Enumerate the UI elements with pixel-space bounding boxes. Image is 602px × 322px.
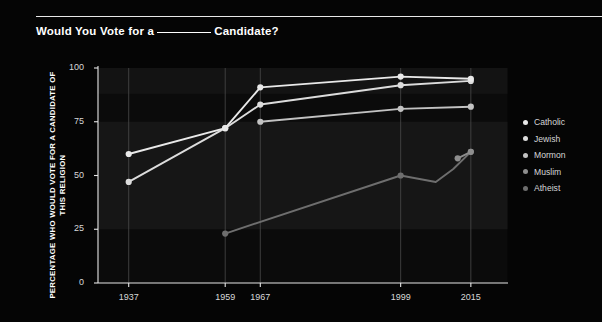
y-tick-label: 25 (50, 223, 84, 233)
data-point-catholic-1937 (126, 151, 132, 157)
legend-item-jewish[interactable]: Jewish (523, 131, 601, 148)
data-point-muslim-2015 (468, 149, 474, 155)
x-tick-label: 1937 (119, 292, 139, 302)
legend-item-catholic[interactable]: Catholic (523, 114, 601, 131)
data-point-jewish-1967 (257, 101, 263, 107)
legend-swatch-icon (523, 136, 528, 141)
data-point-mormon-1967 (257, 119, 263, 125)
legend-item-atheist[interactable]: Atheist (523, 180, 601, 197)
legend-swatch-icon (523, 169, 528, 174)
data-point-catholic-2015 (468, 76, 474, 82)
plot-band-top (98, 68, 508, 94)
data-point-atheist-1999 (398, 172, 404, 178)
data-point-atheist-1959 (222, 230, 228, 236)
y-tick-label: 100 (50, 62, 84, 72)
legend-swatch-icon (523, 186, 528, 191)
legend-item-muslim[interactable]: Muslim (523, 164, 601, 181)
x-tick-label: 1999 (391, 292, 411, 302)
legend-label: Mormon (534, 150, 566, 160)
data-point-catholic-1967 (257, 84, 263, 90)
chart-legend: CatholicJewishMormonMuslimAtheist (523, 114, 601, 197)
legend-swatch-icon (523, 153, 528, 158)
data-point-catholic-1959 (222, 125, 228, 131)
y-tick-label: 75 (50, 116, 84, 126)
y-tick-label: 50 (50, 170, 84, 180)
data-point-catholic-1999 (398, 74, 404, 80)
data-point-mormon-2015 (468, 104, 474, 110)
y-axis-ticks: 0255075100 (44, 0, 84, 322)
legend-label: Atheist (534, 183, 560, 193)
data-point-jewish-1999 (398, 82, 404, 88)
legend-label: Jewish (534, 134, 560, 144)
x-tick-label: 1967 (250, 292, 270, 302)
chart-page: Would You Vote for aCandidate? PERCENTAG… (0, 0, 602, 322)
x-tick-label: 2015 (461, 292, 481, 302)
legend-label: Muslim (534, 167, 561, 177)
line-chart (0, 0, 602, 322)
data-point-muslim-2012 (455, 155, 461, 161)
data-point-mormon-1999 (398, 106, 404, 112)
data-point-jewish-1937 (126, 179, 132, 185)
x-tick-label: 1959 (215, 292, 235, 302)
legend-label: Catholic (534, 117, 565, 127)
legend-swatch-icon (523, 120, 528, 125)
legend-item-mormon[interactable]: Mormon (523, 147, 601, 164)
y-tick-label: 0 (50, 277, 84, 287)
